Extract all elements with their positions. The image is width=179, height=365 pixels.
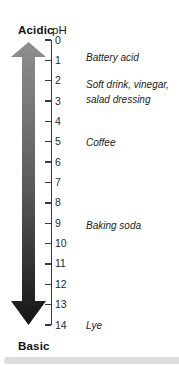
substance-label-baking-soda: Baking soda: [86, 218, 141, 233]
basic-label: Basic: [18, 340, 50, 352]
ph-tick-mark: [45, 80, 51, 81]
ph-tick-label: 9: [55, 217, 61, 230]
ph-tick-label: 11: [55, 257, 66, 270]
ph-tick-mark: [45, 284, 51, 285]
ph-tick-mark: [45, 100, 51, 101]
ph-tick-label: 14: [55, 319, 67, 332]
ph-tick-label: 10: [55, 237, 67, 250]
ph-scale-diagram: Acidic pH Basic 01234567891011121314Batt…: [0, 0, 179, 365]
ph-tick-label: 13: [55, 298, 67, 311]
ph-tick-mark: [45, 202, 51, 203]
acid-base-gradient-arrow: [8, 38, 52, 330]
ph-tick-label: 8: [55, 196, 61, 209]
substance-label-soft-drink-vinegar: Soft drink, vinegar,salad dressing: [86, 77, 169, 107]
ph-tick-label: 6: [55, 156, 61, 169]
ph-tick-mark: [45, 182, 51, 183]
ph-tick-label: 4: [55, 115, 61, 128]
ph-tick-label: 7: [55, 176, 61, 189]
ph-tick-mark: [45, 324, 51, 325]
ph-tick-mark: [45, 263, 51, 264]
ph-tick-mark: [45, 39, 51, 40]
double-arrow-shape: [11, 42, 46, 325]
ph-tick-label: 12: [55, 278, 67, 291]
ph-tick-label: 0: [55, 34, 61, 47]
substance-label-battery-acid: Battery acid: [86, 50, 139, 65]
ph-tick-label: 5: [55, 135, 61, 148]
ph-tick-mark: [45, 121, 51, 122]
ph-tick-mark: [45, 243, 51, 244]
ph-tick-mark: [45, 223, 51, 224]
ph-tick-mark: [45, 304, 51, 305]
horizontal-scrollbar[interactable]: [4, 357, 179, 364]
acidic-label: Acidic: [18, 24, 54, 36]
ph-tick-mark: [45, 161, 51, 162]
ph-tick-label: 2: [55, 74, 61, 87]
ph-tick-mark: [45, 141, 51, 142]
ph-tick-mark: [45, 60, 51, 61]
ph-tick-label: 1: [55, 54, 61, 67]
ph-tick-label: 3: [55, 95, 61, 108]
substance-label-coffee: Coffee: [86, 135, 115, 150]
substance-label-lye: Lye: [86, 318, 102, 333]
